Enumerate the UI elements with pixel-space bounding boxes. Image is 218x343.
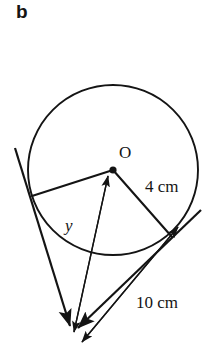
- label-unknown-y: y: [63, 216, 73, 235]
- figure-container: b O 4 cm y 10 cm: [0, 0, 218, 343]
- dimension-line-10cm-lower: [82, 227, 178, 342]
- geometry-diagram: O 4 cm y 10 cm: [0, 0, 218, 343]
- label-radius-4cm: 4 cm: [145, 177, 179, 196]
- label-center-o: O: [119, 143, 131, 162]
- label-tangent-10cm: 10 cm: [136, 293, 178, 312]
- radius-left-segment: [32, 170, 113, 196]
